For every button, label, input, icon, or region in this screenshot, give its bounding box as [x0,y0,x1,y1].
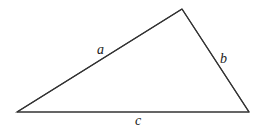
side-a [17,9,182,112]
side-a-label: a [97,42,104,57]
side-b-label: b [220,51,227,66]
triangle-shape [17,9,249,112]
side-b [182,9,249,112]
side-c-label: c [135,113,142,128]
triangle-diagram: a b c [0,0,263,128]
